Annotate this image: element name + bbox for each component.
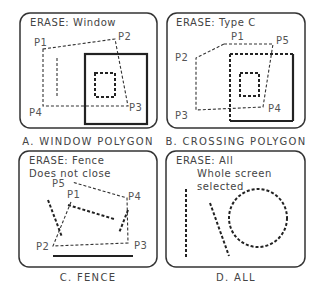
selected-line-object bbox=[119, 210, 128, 233]
panel-all: ERASE: All Whole screen selected D. ALL bbox=[166, 151, 305, 283]
panel-fence: ERASE: Fence Does not close P1 P2 P3 P4 … bbox=[19, 151, 157, 283]
prompt-text: ERASE: Type C bbox=[176, 17, 256, 28]
point-label-p3: P3 bbox=[134, 240, 147, 251]
caption: C. FENCE bbox=[60, 272, 117, 283]
point-label-p4: P4 bbox=[128, 191, 141, 202]
selected-diagonal-line bbox=[210, 203, 229, 256]
caption: D. ALL bbox=[216, 272, 256, 283]
prompt-subtext-line1: Whole screen bbox=[197, 168, 272, 179]
prompt-text: ERASE: Window bbox=[30, 17, 116, 28]
point-label-p4: P4 bbox=[29, 107, 42, 118]
prompt-text: ERASE: Fence bbox=[29, 155, 104, 166]
point-label-p2: P2 bbox=[36, 241, 49, 252]
prompt-text: ERASE: All bbox=[176, 155, 233, 166]
panel-window-polygon: ERASE: Window P1 P2 P3 P4 A. WINDOW POLY… bbox=[20, 13, 157, 147]
point-label-p4: P4 bbox=[268, 103, 281, 114]
fence-line bbox=[53, 182, 128, 246]
point-label-p1: P1 bbox=[67, 189, 80, 200]
caption: B. CROSSING POLYGON bbox=[165, 136, 306, 147]
erase-methods-diagram: ERASE: Window P1 P2 P3 P4 A. WINDOW POLY… bbox=[0, 0, 325, 291]
point-label-p2: P2 bbox=[118, 31, 131, 42]
point-label-p5: P5 bbox=[276, 35, 289, 46]
selected-circle bbox=[229, 189, 287, 247]
prompt-subtext-line2: selected bbox=[197, 181, 244, 192]
point-label-p3: P3 bbox=[129, 102, 142, 113]
inner-selected-square bbox=[95, 73, 115, 97]
point-label-p1: P1 bbox=[34, 37, 47, 48]
point-label-p1: P1 bbox=[231, 31, 244, 42]
prompt-subtext: Does not close bbox=[29, 168, 111, 179]
point-label-p5: P5 bbox=[52, 178, 65, 189]
inner-selected-square bbox=[240, 73, 259, 96]
caption: A. WINDOW POLYGON bbox=[22, 136, 153, 147]
selected-line-object bbox=[68, 205, 114, 219]
panel-crossing-polygon: ERASE: Type C P1 P2 P3 P4 P5 B. CROSSING… bbox=[165, 13, 306, 147]
point-label-p3: P3 bbox=[175, 110, 188, 121]
point-label-p2: P2 bbox=[175, 52, 188, 63]
selected-line-object bbox=[48, 200, 62, 237]
